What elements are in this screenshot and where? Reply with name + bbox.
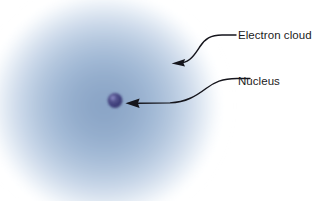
label-nucleus: Nucleus (238, 75, 280, 88)
atom-diagram-figure: Electron cloud Nucleus (0, 0, 335, 201)
nucleus-group (108, 93, 123, 108)
label-electron-cloud: Electron cloud (238, 29, 312, 42)
nucleus-highlight (111, 96, 115, 100)
nucleus-sphere (108, 93, 123, 108)
